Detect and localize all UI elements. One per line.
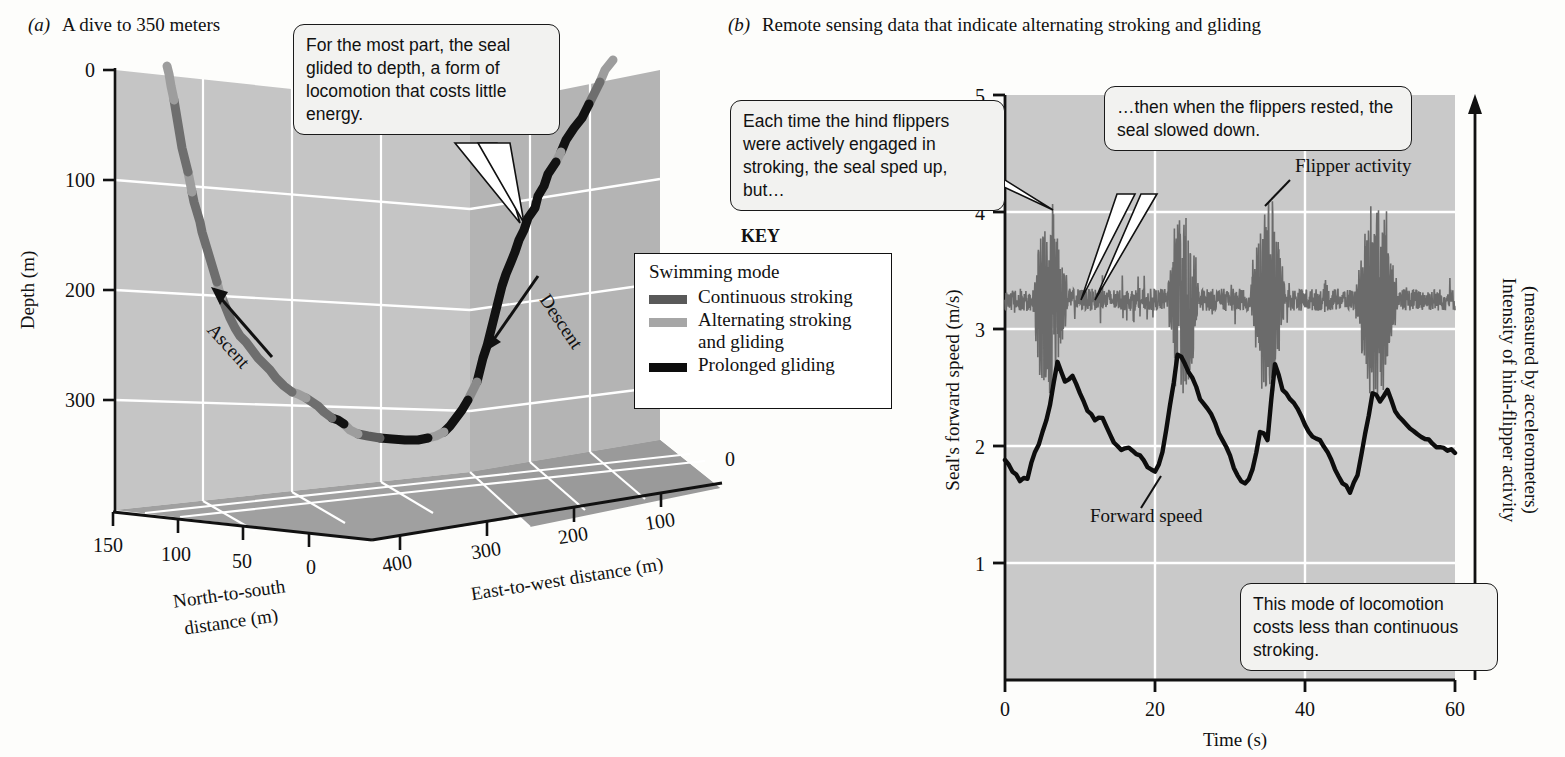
callout-cheap-text: This mode of locomotion costs less than … xyxy=(1253,594,1458,660)
ns-tick-0: 0 xyxy=(306,556,316,578)
x-tick-20: 20 xyxy=(1145,698,1165,720)
depth-tick-300: 300 xyxy=(65,389,95,411)
x-tick-0: 0 xyxy=(1000,698,1010,720)
x-axis-ticks xyxy=(1005,680,1455,692)
forward-speed-label: Forward speed xyxy=(1090,505,1203,526)
x-tick-60: 60 xyxy=(1445,698,1465,720)
panel-a-title-text: A dive to 350 meters xyxy=(62,14,220,35)
depth-tick-200: 200 xyxy=(65,279,95,301)
ew-tick-100: 100 xyxy=(643,508,676,534)
east-west-axis-label: East-to-west distance (m) xyxy=(469,553,664,605)
depth-axis-ticks xyxy=(103,70,115,400)
ew-tick-200: 200 xyxy=(556,522,589,548)
key-swatch-prolonged xyxy=(649,363,687,372)
panel-a-letter: (a) xyxy=(28,14,50,35)
depth-axis-label: Depth (m) xyxy=(17,251,39,330)
x-axis-label: Time (s) xyxy=(1203,729,1267,751)
callout-glide-text: For the most part, the seal glided to de… xyxy=(306,35,510,124)
key-label-prolonged: Prolonged gliding xyxy=(698,354,835,375)
y2-axis-label-line2: (measured by accelerometers) xyxy=(1520,286,1542,514)
y-tick-2: 2 xyxy=(975,436,985,458)
panel-a-title: (a) A dive to 350 meters xyxy=(28,14,220,36)
callout-rested-text: …then when the flippers rested, the seal… xyxy=(1117,97,1393,140)
north-south-axis-label-line2: distance (m) xyxy=(183,605,280,640)
callout-glide: For the most part, the seal glided to de… xyxy=(293,24,560,135)
key-heading: KEY xyxy=(741,226,780,247)
key-label-continuous: Continuous stroking xyxy=(698,286,853,307)
flipper-activity-label: Flipper activity xyxy=(1295,155,1412,176)
ns-tick-150: 150 xyxy=(93,534,123,556)
x-tick-40: 40 xyxy=(1295,698,1315,720)
y2-axis-label-line1: Intensity of hind-flipper activity xyxy=(1499,278,1520,523)
callout-rested: …then when the flippers rested, the seal… xyxy=(1104,86,1412,151)
callout-stroking-text: Each time the hind flippers were activel… xyxy=(743,111,949,200)
y-tick-3: 3 xyxy=(975,319,985,341)
key-item-alternating: Alternating stroking and gliding xyxy=(635,308,891,353)
ns-tick-100: 100 xyxy=(161,543,191,565)
key-box: Swimming mode Continuous stroking Altern… xyxy=(634,253,892,409)
y-tick-1: 1 xyxy=(975,553,985,575)
ew-tick-0: 0 xyxy=(725,448,735,470)
panel-b-letter: (b) xyxy=(728,14,750,35)
key-subheading: Swimming mode xyxy=(635,254,891,285)
ns-tick-50: 50 xyxy=(232,550,252,572)
key-item-continuous-stroking: Continuous stroking xyxy=(635,285,891,308)
callout-stroking: Each time the hind flippers were activel… xyxy=(730,100,1005,211)
key-item-prolonged: Prolonged gliding xyxy=(635,353,891,376)
key-swatch-alternating xyxy=(649,318,687,327)
y-axis-label: Seal's forward speed (m/s) xyxy=(942,289,964,490)
key-swatch-continuous xyxy=(649,295,687,304)
ew-tick-400: 400 xyxy=(380,550,413,576)
depth-tick-100: 100 xyxy=(65,169,95,191)
callout-cheap: This mode of locomotion costs less than … xyxy=(1240,583,1498,671)
bottom-segment-glide xyxy=(380,438,428,440)
key-label-alternating: Alternating stroking and gliding xyxy=(698,309,883,352)
ew-tick-300: 300 xyxy=(469,537,502,563)
depth-tick-0: 0 xyxy=(85,59,95,81)
